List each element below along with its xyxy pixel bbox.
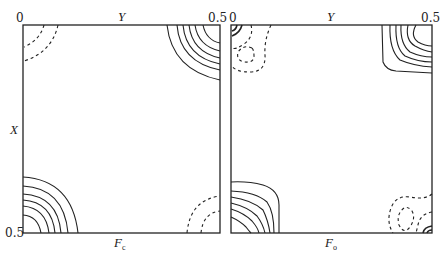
left-bottom-left-positive-contours [23, 177, 78, 233]
left-top-left-negative-contours [24, 25, 58, 61]
left-bottom-right-negative-contours [187, 196, 220, 233]
right-bottom-right-contours [389, 194, 432, 233]
left-top-right-positive-contours [167, 25, 220, 80]
right-top-left-contours [232, 25, 271, 72]
right-top-right-positive-contours [382, 25, 432, 73]
contour-maps [0, 0, 441, 256]
right-bottom-left-positive-contours [231, 182, 279, 233]
right-panel-frame [231, 25, 432, 233]
